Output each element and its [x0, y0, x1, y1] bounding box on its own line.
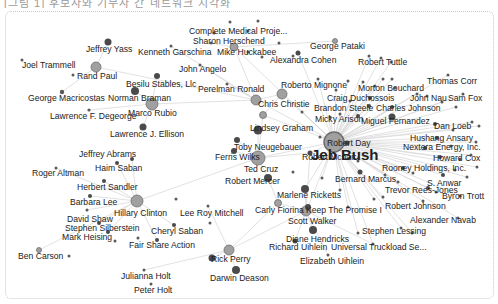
node-label-hillary: Hillary Clinton [114, 208, 167, 218]
minor-node[interactable] [391, 78, 394, 81]
node-label-samfox: Sam Fox [448, 93, 483, 103]
node-label-huckabee: Mike Huckabee [217, 47, 276, 57]
node-label-corr: Thomas Corr [427, 76, 477, 86]
node-label-yass: Jeffrey Yass [86, 44, 132, 54]
node-label-nextera: Nextera Energy, Inc. [403, 142, 481, 152]
minor-node[interactable] [321, 177, 324, 180]
node-label-kpi: Keep The Promise I [306, 205, 382, 215]
node-label-cmp: Complete Medical Proje... [189, 26, 287, 36]
minor-node[interactable] [301, 111, 304, 114]
node-label-trammell: Joel Trammell [22, 60, 76, 70]
node-label-christie: Chris Christie [258, 99, 310, 109]
node-label-fairshare: Fair Share Action [129, 240, 195, 250]
minor-node[interactable] [72, 74, 75, 77]
node-label-herschend: Sharon Herschend [193, 36, 265, 46]
node-label-steele: Brandon Steele [314, 103, 373, 113]
node-hillary[interactable] [131, 195, 143, 207]
node-label-cox: Howard Cox [433, 153, 481, 163]
node-label-heising: Mark Heising [62, 232, 112, 242]
node-label-marcus: Bernard Marcus [335, 174, 396, 184]
minor-node[interactable] [175, 198, 178, 201]
network-graph[interactable]: Jeb BushHillary ClintonRand PaulMarco Ru… [0, 0, 498, 304]
node-label-trott: Byron Trott [442, 191, 485, 201]
node-label-day: Robert Day [327, 138, 371, 148]
node-label-navab: Alexander Navab [410, 215, 476, 225]
minor-node[interactable] [209, 222, 212, 225]
node-label-wilks: Ferris Wilks [215, 152, 260, 162]
node-label-tuttle: Robert Tuttle [358, 57, 407, 67]
node-label-mignone: Roberto Mignone [281, 80, 347, 90]
minor-node[interactable] [278, 42, 281, 45]
node-shaw[interactable] [86, 209, 89, 212]
node-label-mitchell: Lee Roy Mitchell [180, 208, 244, 218]
minor-node[interactable] [257, 20, 260, 23]
minor-node[interactable] [382, 78, 385, 81]
minor-node[interactable] [292, 171, 295, 174]
node-hendricks[interactable] [309, 226, 317, 234]
minor-node[interactable] [114, 240, 117, 243]
node-label-degeorge: Lawrence F. Degeorge [50, 111, 137, 121]
node-label-carson: Ben Carson [18, 251, 64, 261]
node-label-fiorina: Carly Fiorina [255, 205, 304, 215]
minor-node[interactable] [397, 181, 400, 184]
node-label-ricketts: Marlene Ricketts [277, 190, 341, 200]
minor-node[interactable] [455, 106, 458, 109]
node-label-sandler: Herbert Sandler [77, 182, 138, 192]
node-label-altman: Roger Altman [32, 168, 84, 178]
node-mignone[interactable] [277, 89, 287, 99]
node-graham[interactable] [260, 112, 267, 119]
node-label-duchossois: Craig Duchossois [327, 93, 394, 103]
node-label-nau: John Nau [410, 93, 447, 103]
node-label-arison: Micky Arison [315, 114, 363, 124]
minor-node[interactable] [476, 166, 479, 169]
minor-node[interactable] [229, 21, 232, 24]
minor-node[interactable] [68, 255, 71, 258]
node-label-walker: Scott Walker [288, 216, 337, 226]
node-label-besilu: Besilu Stables, Llc [126, 79, 197, 89]
node-label-braman: Norman Braman [108, 93, 171, 103]
node-label-rooney: Rooney Holdings, Inc. [382, 163, 466, 173]
node-label-mercer: Robert Mercer [225, 176, 280, 186]
minor-node[interactable] [373, 198, 376, 201]
node-label-perelman: Perelman Ronald [198, 84, 265, 94]
node-label-graham: Lindsey Graham [250, 123, 313, 133]
node-label-fernandez: Miguel Fernandez [361, 116, 430, 126]
node-label-utruck: Universal Truckload Se... [331, 242, 427, 252]
node-label-angelo: John Angelo [179, 64, 227, 74]
node-label-perry: Rick Perry [211, 254, 251, 264]
node-label-mcnair: Robert Mcnair [302, 152, 356, 162]
node-label-bouchard: Morton Bouchard [358, 83, 424, 93]
node-label-ellison: Lawrence J. Ellison [110, 129, 184, 139]
minor-node[interactable] [357, 232, 360, 235]
node-anwar[interactable] [441, 173, 445, 177]
node-label-abrams: Jeffrey Abrams [79, 149, 136, 159]
minor-node[interactable] [347, 80, 350, 83]
node-label-ruihlein: Richard Uihlein [269, 242, 327, 252]
minor-node[interactable] [319, 136, 322, 139]
minor-node[interactable] [382, 196, 385, 199]
node-label-neugebauer: Toby Neugebauer [234, 142, 302, 152]
minor-node[interactable] [478, 125, 481, 128]
node-label-rand: Rand Paul [77, 71, 117, 81]
node-label-euihlein: Elizabeth Uihlein [300, 256, 364, 266]
node-label-jholt: Julianna Holt [121, 271, 171, 281]
node-label-saban: Haim Saban [95, 163, 143, 173]
node-label-macricostas: George Macricostas [28, 93, 105, 103]
node-label-pataki: George Pataki [310, 41, 365, 51]
node-label-rjohnson: Robert Johnson [385, 201, 446, 211]
node-label-pholt: Peter Holt [134, 285, 173, 295]
node-label-blee: Barbara Lee [70, 197, 118, 207]
node-label-deason: Darwin Deason [210, 273, 269, 283]
node-label-cohen: Alexandra Cohen [270, 55, 337, 65]
node-label-garschina: Kenneth Garschina [138, 47, 212, 57]
minor-node[interactable] [466, 176, 469, 179]
node-label-csaban: Cheryl Saban [151, 226, 203, 236]
node-label-cjohnson: Charles Johnson [376, 103, 441, 113]
node-label-cruz: Ted Cruz [244, 164, 278, 174]
node-label-loeb: Dan Loeb [434, 121, 471, 131]
node-label-lessing: Stephen Lessing [362, 226, 426, 236]
